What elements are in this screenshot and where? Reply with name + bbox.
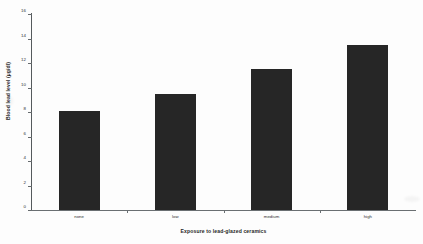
x-tick-mark (224, 210, 225, 213)
bar-high (347, 45, 388, 210)
x-tick-label-medium: medium (242, 214, 302, 219)
x-tick-mark (320, 210, 321, 213)
bar-low (155, 94, 196, 210)
bar-chart-figure: 0246810121416 nonelowmediumhigh Blood le… (0, 0, 423, 244)
y-tick-label: 14 (6, 34, 26, 38)
x-tick-label-none: none (49, 214, 109, 219)
y-tick-label: 0 (6, 205, 26, 209)
x-axis-title: Exposure to lead-glazed ceramics (31, 228, 416, 234)
x-tick-label-low: low (145, 214, 205, 219)
bar-none (59, 111, 100, 210)
x-tick-mark (127, 210, 128, 213)
y-axis-title: Blood lead level (µg/dl) (5, 41, 11, 141)
y-tick-label: 2 (6, 181, 26, 185)
x-tick-label-high: high (338, 214, 398, 219)
bar-medium (251, 69, 292, 210)
y-tick-label: 4 (6, 156, 26, 160)
y-tick-label: 16 (6, 9, 26, 13)
plot-area (31, 14, 416, 210)
